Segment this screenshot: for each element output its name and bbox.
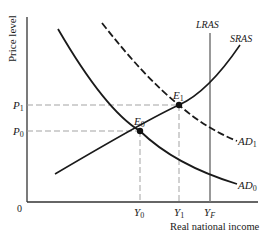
- e1-label: E1: [172, 89, 184, 103]
- x-axis-label: Real national income: [170, 221, 260, 232]
- ad0-label: AD0: [237, 179, 257, 193]
- ad1-label: AD1: [237, 135, 257, 149]
- sras-label: SRAS: [230, 33, 252, 44]
- y0-label: Y0: [134, 206, 144, 220]
- lras-label: LRAS: [195, 19, 219, 30]
- sras-curve: [55, 45, 240, 174]
- ad-as-diagram: Price level 0 P1 P0 Y0 Y1 YF Real nation…: [0, 0, 275, 238]
- yf-label: YF: [204, 206, 215, 220]
- p1-label: P1: [12, 99, 24, 113]
- e0-label: E0: [133, 115, 145, 129]
- ad1-curve: [102, 23, 237, 141]
- origin-label: 0: [17, 203, 22, 214]
- p0-label: P0: [12, 125, 24, 139]
- y1-label: Y1: [174, 206, 184, 220]
- y-axis-label: Price level: [6, 15, 18, 62]
